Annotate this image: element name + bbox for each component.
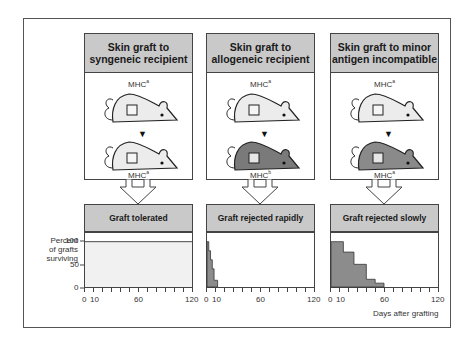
x-tick-0: 0 bbox=[328, 295, 332, 304]
x-tick-0: 0 bbox=[204, 295, 208, 304]
y-tick-100: 100 bbox=[65, 236, 78, 245]
x-axis-ticks-3 bbox=[330, 287, 440, 293]
x-tick-10: 10 bbox=[336, 295, 345, 304]
x-tick-120: 120 bbox=[185, 295, 198, 304]
outcome-label-slow: Graft rejected slowly bbox=[330, 204, 439, 232]
arrow-down-notch-icon bbox=[364, 179, 404, 205]
y-axis-ticks bbox=[78, 240, 86, 290]
panel-header: Skin graft to allogeneic recipient bbox=[207, 34, 314, 73]
x-tick-10: 10 bbox=[90, 295, 99, 304]
donor-mouse-icon bbox=[345, 90, 425, 126]
x-tick-10: 10 bbox=[212, 295, 221, 304]
survival-chart-rapid bbox=[206, 232, 315, 288]
x-tick-0: 0 bbox=[82, 295, 86, 304]
donor-mouse-icon bbox=[221, 90, 301, 126]
outcome-label-rapid: Graft rejected rapidly bbox=[206, 204, 315, 232]
donor-mhc-label: MHCa bbox=[85, 78, 192, 89]
panel-syngeneic: Skin graft to syngeneic recipient MHCa ▼… bbox=[84, 33, 193, 180]
arrow-down-notch-icon bbox=[240, 179, 280, 205]
x-tick-60: 60 bbox=[134, 295, 143, 304]
donor-mhc-label: MHCa bbox=[331, 78, 438, 89]
panel-minor-antigen: Skin graft to minor antigen incompatible… bbox=[330, 33, 439, 180]
panel-title-line2: allogeneic recipient bbox=[211, 53, 309, 65]
panel-allogeneic: Skin graft to allogeneic recipient MHCa … bbox=[206, 33, 315, 180]
panel-header: Skin graft to minor antigen incompatible bbox=[331, 34, 438, 73]
survival-chart-slow bbox=[330, 232, 439, 288]
panel-title-line2: syngeneic recipient bbox=[89, 53, 187, 65]
x-axis-ticks-1 bbox=[84, 287, 194, 293]
x-axis-ticks-2 bbox=[206, 287, 316, 293]
panel-title-line1: Skin graft to bbox=[89, 41, 187, 53]
arrow-down-notch-icon bbox=[118, 179, 158, 205]
donor-mouse-icon bbox=[99, 90, 179, 126]
x-tick-60: 60 bbox=[256, 295, 265, 304]
x-axis-title: Days after grafting bbox=[373, 309, 438, 318]
x-tick-120: 120 bbox=[307, 295, 320, 304]
panel-header: Skin graft to syngeneic recipient bbox=[85, 34, 192, 73]
x-tick-120: 120 bbox=[431, 295, 444, 304]
panel-title-line1: Skin graft to bbox=[211, 41, 309, 53]
x-tick-60: 60 bbox=[380, 295, 389, 304]
donor-mhc-label: MHCa bbox=[207, 78, 314, 89]
outcome-label-tolerated: Graft tolerated bbox=[84, 204, 193, 232]
panel-title-line2: antigen incompatible bbox=[332, 53, 437, 65]
survival-chart-tolerated bbox=[84, 232, 193, 288]
panel-title-line1: Skin graft to minor bbox=[332, 41, 437, 53]
